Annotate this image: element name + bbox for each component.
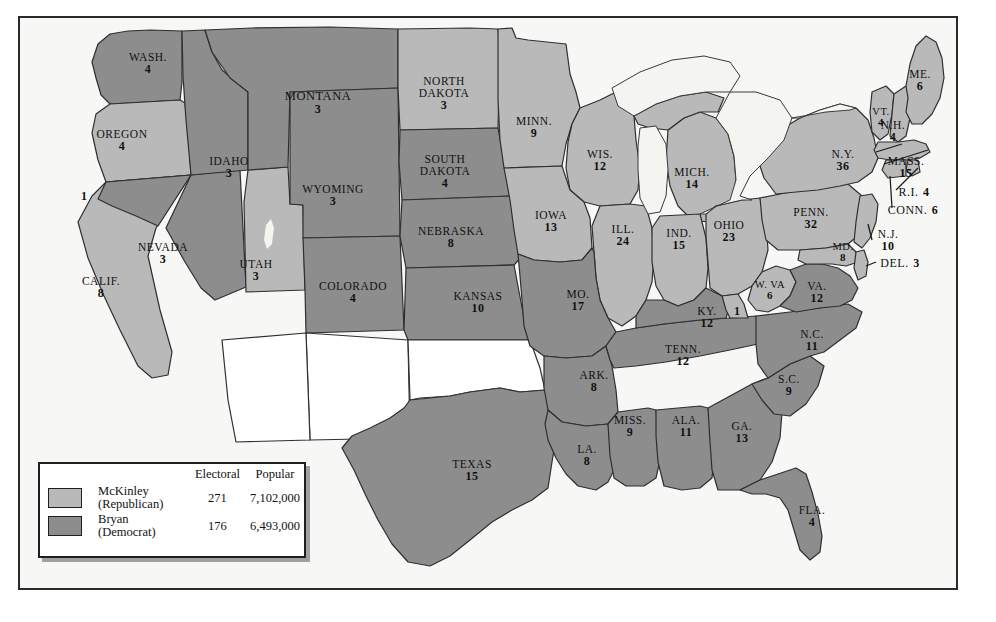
- map-legend: Electoral Popular McKinley(Republican)27…: [38, 462, 306, 558]
- legend-popular-value: 7,102,000: [246, 484, 304, 512]
- state-shape-connecticut: [882, 160, 906, 178]
- legend-row: McKinley(Republican)2717,102,000: [40, 484, 304, 512]
- state-shape-kansas: [404, 265, 530, 340]
- legend-swatch-cell: [40, 484, 94, 512]
- legend-body: McKinley(Republican)2717,102,000Bryan(De…: [40, 484, 304, 540]
- state-shape-sdakota: [399, 128, 510, 200]
- legend-electoral-value: 271: [189, 484, 246, 512]
- legend-popular-value: 6,493,000: [246, 512, 304, 540]
- legend-electoral-value: 176: [189, 512, 246, 540]
- state-shape-tennessee: [606, 316, 762, 368]
- bryan-swatch: [48, 516, 82, 536]
- mckinley-swatch: [48, 488, 82, 508]
- electoral-map-figure: WASH.4OREGON4CALIF.8NEVADA3IDAHO3UTAH3MO…: [0, 0, 996, 622]
- legend-candidate-party: (Democrat): [98, 526, 185, 539]
- legend-candidate-party: (Republican): [98, 498, 185, 511]
- state-shape-wyoming: [290, 88, 400, 238]
- state-shape-oregon: [92, 100, 191, 182]
- legend-candidate-cell: Bryan(Democrat): [94, 512, 189, 540]
- state-shape-alabama: [656, 406, 714, 490]
- state-shape-mississippi: [608, 408, 660, 486]
- legend-header-electoral: Electoral: [189, 466, 246, 484]
- state-shape-colorado: [303, 236, 404, 333]
- state-shape-wash: [92, 30, 182, 104]
- legend-row: Bryan(Democrat)1766,493,000: [40, 512, 304, 540]
- territory-shape-arizona: [222, 333, 310, 442]
- state-shape-maine: [906, 36, 944, 124]
- lake-michigan: [638, 126, 668, 214]
- legend-candidate-cell: McKinley(Republican): [94, 484, 189, 512]
- state-shape-nebraska: [400, 196, 526, 268]
- state-shape-indiana: [652, 214, 708, 306]
- legend-table: Electoral Popular McKinley(Republican)27…: [40, 466, 304, 540]
- legend-spacer-cell-2: [94, 466, 189, 484]
- legend-spacer-cell: [40, 466, 94, 484]
- legend-swatch-cell: [40, 512, 94, 540]
- state-shape-delaware: [854, 250, 868, 280]
- legend-header-row: Electoral Popular: [40, 466, 304, 484]
- leader-line-connecticut: [890, 176, 892, 208]
- legend-header-popular: Popular: [246, 466, 304, 484]
- state-shape-ndakota: [398, 28, 500, 130]
- state-shape-arkansas: [544, 346, 618, 426]
